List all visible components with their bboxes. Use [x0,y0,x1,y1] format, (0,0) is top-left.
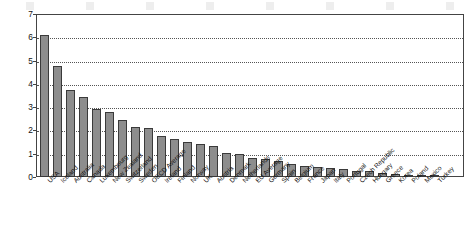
bar-slot [92,14,101,177]
bar-slot [365,14,374,177]
bar-slot [105,14,114,177]
bar-slot [157,14,166,177]
bar-slot [417,14,426,177]
bar [53,66,62,177]
bar-slot [40,14,49,177]
y-axis: 01234567 [0,14,36,177]
bar-slot [287,14,296,177]
bar-slot [313,14,322,177]
bar-slot [196,14,205,177]
bar-slot [248,14,257,177]
bar-slot [235,14,244,177]
bar-slot [300,14,309,177]
x-axis-category-labels: USAIcelandAustraliaCanadaLuxembourgNew Z… [36,178,474,239]
bar-slot [53,14,62,177]
bar-slot [79,14,88,177]
bar-slot [66,14,75,177]
bar-slot [222,14,231,177]
bar-slot [404,14,413,177]
bar [40,35,49,177]
bar-slot [274,14,283,177]
bar-slot [209,14,218,177]
bar-slot [352,14,361,177]
scan-artifact [0,2,474,10]
bar-slot [339,14,348,177]
bar-slot [430,14,439,177]
bar-slot [144,14,153,177]
bar-slot [326,14,335,177]
bar-series [36,14,464,177]
bar [209,146,218,177]
bar-chart-figure: Number per capita 01234567 USAIcelandAus… [0,0,474,239]
